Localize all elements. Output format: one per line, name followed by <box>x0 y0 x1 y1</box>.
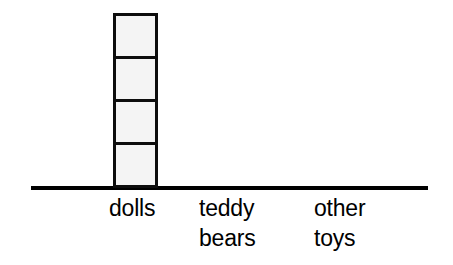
x-axis-label-teddy-bears: teddy bears <box>199 193 256 253</box>
bar-cell <box>113 142 158 188</box>
bar-cell <box>113 13 158 56</box>
x-axis-label-dolls: dolls <box>109 193 155 223</box>
x-axis-label-other-toys: other toys <box>314 193 365 253</box>
bar-cell <box>113 56 158 99</box>
pictograph-figure: dolls teddy bears other toys <box>0 0 453 265</box>
bar-cell <box>113 99 158 142</box>
x-axis-baseline <box>31 186 428 190</box>
bar-column-dolls[interactable] <box>113 13 158 188</box>
